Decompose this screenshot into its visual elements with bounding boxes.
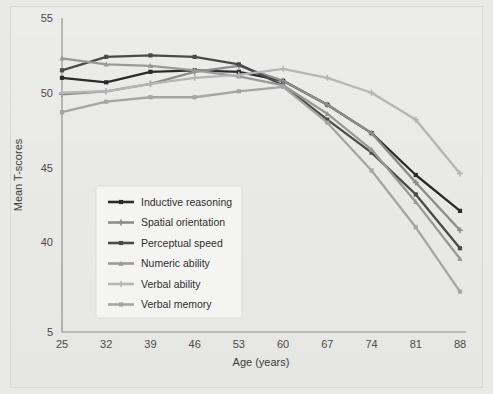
legend-label: Numeric ability	[141, 257, 211, 269]
y-tick-label: 45	[41, 162, 53, 174]
x-tick-label: 67	[321, 338, 333, 350]
legend-label: Spatial orientation	[141, 216, 225, 228]
x-tick-label: 88	[454, 338, 466, 350]
y-tick-label: 5	[47, 326, 53, 338]
x-tick-label: 32	[100, 338, 112, 350]
x-tick-label: 46	[189, 338, 201, 350]
x-tick-label: 25	[56, 338, 68, 350]
x-tick-label: 60	[277, 338, 289, 350]
legend-label: Inductive reasoning	[141, 196, 232, 208]
legend-label: Perceptual speed	[141, 237, 223, 249]
x-tick-label: 74	[365, 338, 377, 350]
line-chart: 540455055Mean T-scores253239465360677481…	[0, 0, 493, 394]
x-tick-label: 39	[144, 338, 156, 350]
x-axis-title: Age (years)	[233, 356, 290, 368]
chart-figure: 540455055Mean T-scores253239465360677481…	[0, 0, 493, 394]
y-tick-label: 50	[41, 87, 53, 99]
x-tick-label: 81	[410, 338, 422, 350]
y-tick-label: 55	[41, 12, 53, 24]
y-axis-ticks: 540455055	[41, 12, 53, 338]
legend-label: Verbal ability	[141, 278, 201, 290]
y-axis-title: Mean T-scores	[12, 138, 24, 211]
legend-label: Verbal memory	[141, 298, 212, 310]
y-tick-label: 40	[41, 236, 53, 248]
x-tick-label: 53	[233, 338, 245, 350]
x-axis-ticks: 25323946536067748188	[56, 338, 466, 350]
chart-legend: Inductive reasoningSpatial orientationPe…	[96, 186, 242, 318]
data-series	[59, 66, 463, 177]
